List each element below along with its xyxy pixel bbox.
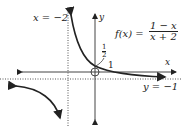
curve-left-branch <box>16 86 60 118</box>
y-axis-label: y <box>99 13 104 22</box>
graph-svg <box>0 0 181 126</box>
function-label: f(x) = <box>115 29 144 39</box>
y-intercept-label: 1 2 <box>102 44 106 59</box>
y-intercept-pointer <box>96 58 104 66</box>
x-intercept-label: 1 <box>108 61 114 70</box>
function-fraction: 1 − x x + 2 <box>149 21 178 42</box>
graph-diagram: x = −2 y f(x) = 1 − x x + 2 1 2 1 x y = … <box>0 0 181 126</box>
function-denominator: x + 2 <box>149 32 178 42</box>
x-axis-label: x <box>165 58 170 67</box>
y-intercept-den: 2 <box>102 52 106 59</box>
horizontal-asymptote-label: y = −1 <box>143 82 178 92</box>
vertical-asymptote-label: x = −2 <box>33 13 68 23</box>
